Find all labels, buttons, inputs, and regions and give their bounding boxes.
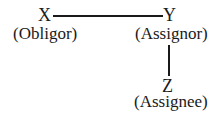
- node-y-role: (Assignor): [135, 25, 208, 42]
- node-x-role: (Obligor): [13, 25, 77, 42]
- edge-x-y: [53, 15, 163, 17]
- node-x-label: X: [38, 6, 51, 24]
- edge-y-z: [168, 45, 170, 76]
- node-z-role: (Assignee): [134, 93, 208, 110]
- node-y-label: Y: [163, 6, 176, 24]
